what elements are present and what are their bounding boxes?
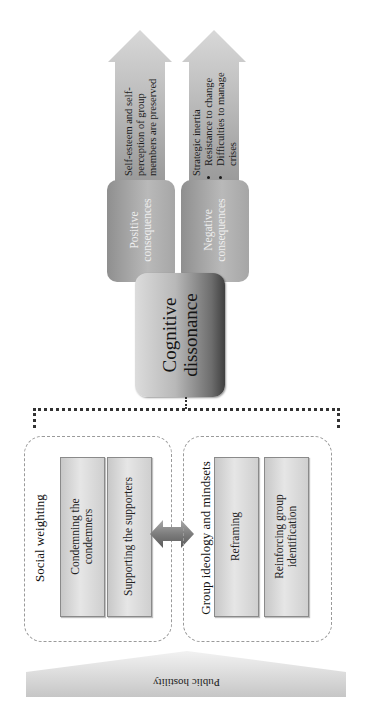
cognitive-dissonance-label-wrap: Cognitive dissonance xyxy=(135,273,225,397)
negative-outcome-text: Strategic inertia Resistance to change D… xyxy=(191,66,239,176)
supporting-supporters-label: Supporting the supporters xyxy=(122,462,135,612)
negative-outcome-heading: Strategic inertia xyxy=(191,66,203,176)
negative-outcome-text-wrap: Strategic inertia Resistance to change D… xyxy=(190,64,240,178)
reframing-label: Reframing xyxy=(229,512,242,561)
social-weighting-title: Social weighting xyxy=(32,494,48,582)
bullet-item: Difficulties to manage crises xyxy=(215,66,239,166)
positive-consequences-label-wrap: Positive consequences xyxy=(107,180,175,280)
positive-outcome-text: Self-esteem and self-perception of group… xyxy=(123,66,159,176)
positive-outcome-text-wrap: Self-esteem and self-perception of group… xyxy=(116,64,166,178)
negative-consequences-label-wrap: Negative consequences xyxy=(181,180,249,280)
dotted-bracket xyxy=(33,408,340,428)
public-hostility-label-wrap: Public hostility xyxy=(26,672,346,694)
supporting-supporters-label-wrap: Supporting the supporters xyxy=(107,458,150,616)
reinforcing-identification-label: Reinforcing group identification xyxy=(272,477,298,597)
negative-outcome-bullets: Resistance to change Difficulties to man… xyxy=(203,66,239,176)
public-hostility-label: Public hostility xyxy=(153,677,220,689)
reframing-label-wrap: Reframing xyxy=(214,458,257,616)
cognitive-dissonance-label: Cognitive dissonance xyxy=(159,285,201,385)
social-weighting-title-wrap: Social weighting xyxy=(29,458,51,618)
condemning-condemners-label: Condemning the condemners xyxy=(68,482,94,592)
group-ideology-title: Group ideology and mindsets xyxy=(198,461,214,614)
positive-consequences-label: Positive consequences xyxy=(128,190,154,270)
bullet-item: Resistance to change xyxy=(203,66,215,166)
condemning-condemners-label-wrap: Condemning the condemners xyxy=(60,458,103,616)
negative-consequences-label: Negative consequences xyxy=(202,190,228,270)
reinforcing-identification-label-wrap: Reinforcing group identification xyxy=(264,458,307,616)
